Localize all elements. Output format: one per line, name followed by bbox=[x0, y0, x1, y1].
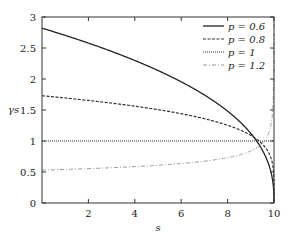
y-axis-label: γs bbox=[8, 104, 19, 115]
legend-label-2: p = 1 bbox=[228, 47, 256, 58]
legend-label-1: p = 0.8 bbox=[228, 34, 265, 45]
y-tick-label: 1 bbox=[30, 136, 36, 147]
x-tick-label: 8 bbox=[224, 208, 230, 219]
y-tick-label: 2.5 bbox=[20, 43, 36, 54]
x-tick-label: 2 bbox=[85, 208, 91, 219]
y-tick-label: 2 bbox=[30, 74, 36, 85]
line-chart: 24681000.511.522.53sγsp = 0.6p = 0.8p = … bbox=[0, 0, 290, 234]
legend-label-0: p = 0.6 bbox=[228, 21, 266, 32]
y-tick-label: 0.5 bbox=[20, 167, 36, 178]
y-tick-label: 1.5 bbox=[20, 105, 36, 116]
x-tick-label: 6 bbox=[178, 208, 184, 219]
legend-label-3: p = 1.2 bbox=[228, 60, 265, 71]
x-tick-label: 4 bbox=[132, 208, 138, 219]
y-tick-label: 0 bbox=[30, 198, 36, 209]
plot-frame bbox=[42, 17, 274, 203]
x-axis-label: s bbox=[155, 222, 160, 233]
series-line-1 bbox=[42, 96, 274, 196]
y-tick-label: 3 bbox=[30, 12, 36, 23]
x-tick-label: 10 bbox=[268, 208, 281, 219]
